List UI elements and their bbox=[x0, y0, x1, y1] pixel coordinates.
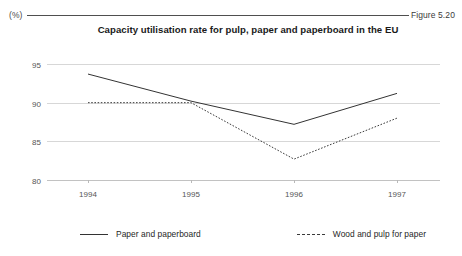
figure-container: (%) Figure 5.20 Capacity utilisation rat… bbox=[0, 0, 462, 256]
plot-wrapper: 80859095 1994199519961997 bbox=[0, 0, 462, 256]
series-line-0 bbox=[88, 74, 397, 124]
legend-item-0[interactable]: Paper and paperboard bbox=[80, 229, 201, 239]
legend-swatch-dashed-icon bbox=[297, 234, 325, 235]
series-layer bbox=[0, 0, 462, 256]
x-tick-mark-1995 bbox=[191, 180, 192, 183]
x-tick-label-1995: 1995 bbox=[182, 190, 200, 199]
legend-swatch-solid-icon bbox=[80, 234, 108, 235]
chart-legend: Paper and paperboardWood and pulp for pa… bbox=[0, 225, 462, 243]
x-tick-label-1996: 1996 bbox=[285, 190, 303, 199]
x-tick-mark-1994 bbox=[88, 180, 89, 183]
series-line-1 bbox=[88, 103, 397, 159]
legend-label-1: Wood and pulp for paper bbox=[333, 229, 426, 239]
x-tick-mark-1997 bbox=[397, 180, 398, 183]
x-tick-mark-1996 bbox=[294, 180, 295, 183]
x-tick-label-1997: 1997 bbox=[388, 190, 406, 199]
legend-item-1[interactable]: Wood and pulp for paper bbox=[297, 229, 426, 239]
legend-label-0: Paper and paperboard bbox=[116, 229, 201, 239]
x-tick-label-1994: 1994 bbox=[79, 190, 97, 199]
